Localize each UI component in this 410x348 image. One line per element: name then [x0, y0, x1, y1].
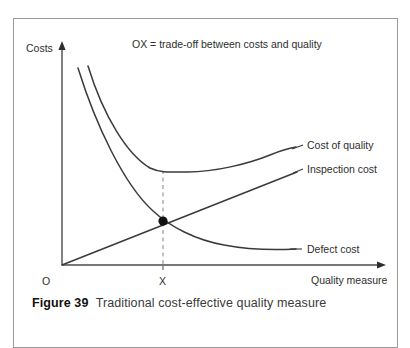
x-axis-label: Quality measure: [311, 274, 388, 286]
trade-off-note: OX = trade-off between costs and quality: [132, 38, 323, 50]
curve-defect-cost: [78, 68, 296, 250]
label-inspection-cost: Inspection cost: [307, 163, 377, 175]
curve-inspection-cost: [62, 172, 297, 265]
curve-cost-of-quality: [88, 66, 296, 172]
x-tick-label: X: [159, 275, 166, 287]
figure-caption-label: Figure 39: [32, 296, 88, 310]
label-cost-of-quality: Cost of quality: [307, 139, 374, 151]
figure-caption-spacer: [88, 296, 95, 310]
figure-caption: Figure 39 Traditional cost-effective qua…: [32, 296, 382, 310]
figure-caption-text: Traditional cost-effective quality measu…: [96, 296, 327, 310]
label-defect-cost: Defect cost: [307, 243, 360, 255]
leader-line-inspection-cost: [293, 169, 303, 173]
y-axis: [58, 41, 65, 265]
trade-off-point-marker: [158, 216, 167, 225]
x-axis: [62, 261, 386, 268]
origin-label: O: [42, 275, 50, 287]
y-axis-label: Costs: [26, 42, 53, 54]
